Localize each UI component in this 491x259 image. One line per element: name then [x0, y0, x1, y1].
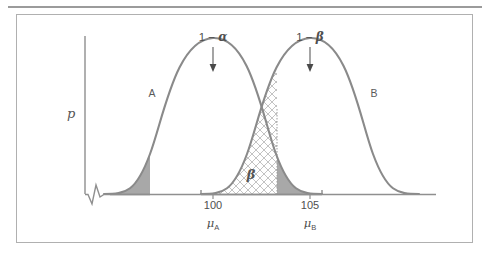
beta-annotation-arrow-head	[307, 64, 314, 72]
x-tick-label-100: 100	[204, 200, 222, 211]
top-horizontal-rule	[8, 6, 482, 8]
power-analysis-chart	[16, 14, 473, 243]
power-beta-prefix: 1 −	[296, 31, 316, 43]
mu-b-subscript: B	[311, 223, 316, 232]
alpha-left-tail-region	[104, 14, 150, 195]
curve-a-label: A	[148, 88, 155, 99]
x-tick-label-105: 105	[301, 200, 319, 211]
alpha-annotation-arrow-head	[210, 64, 217, 72]
beta-symbol: β	[316, 30, 324, 44]
y-axis-label: p	[67, 107, 75, 120]
figure-root: p 1 − α 1 − β A B β 100 105 μA μB	[0, 0, 491, 259]
power-alpha-label: 1 − α	[199, 31, 228, 44]
mu-a-subscript: A	[214, 223, 219, 232]
alpha-symbol: α	[218, 30, 227, 44]
mu-b-label: μB	[304, 218, 317, 232]
power-alpha-prefix: 1 −	[199, 31, 219, 43]
curve-b-label: B	[370, 88, 377, 99]
power-beta-label: 1 − β	[296, 31, 323, 44]
beta-region-label: β	[247, 168, 256, 181]
mu-a-label: μA	[207, 218, 220, 232]
